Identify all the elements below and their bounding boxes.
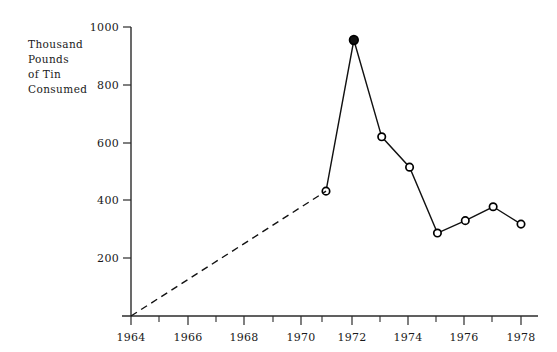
- x-tick-label-1966: 1966: [173, 331, 202, 344]
- data-point-marker-1973[interactable]: [378, 133, 385, 140]
- y-tick-label-800: 800: [97, 79, 119, 92]
- y-axis-ticks: [123, 27, 131, 258]
- y-tick-label-600: 600: [97, 137, 119, 150]
- x-tick-label-1968: 1968: [229, 331, 258, 344]
- y-axis-tick-labels: 1000 800 600 400 200: [90, 21, 119, 265]
- data-point-marker-1975[interactable]: [434, 229, 441, 236]
- y-axis-label-line-3: of Tin: [28, 68, 61, 80]
- series-trend-dashed: [131, 191, 326, 316]
- data-point-marker-1978[interactable]: [517, 220, 524, 227]
- x-tick-label-1964: 1964: [116, 331, 145, 344]
- line-chart: Thousand Pounds of Tin Consumed 1000 800…: [0, 0, 557, 352]
- x-tick-label-1976: 1976: [449, 331, 478, 344]
- x-axis-ticks: [131, 316, 521, 325]
- y-tick-label-1000: 1000: [90, 21, 119, 34]
- y-axis-label-line-1: Thousand: [28, 38, 83, 50]
- chart-page: Thousand Pounds of Tin Consumed 1000 800…: [0, 0, 557, 352]
- y-tick-label-400: 400: [97, 194, 119, 207]
- x-tick-label-1970: 1970: [286, 331, 315, 344]
- y-axis-label-line-4: Consumed: [28, 83, 87, 95]
- y-axis-label-line-2: Pounds: [28, 53, 69, 65]
- data-point-marker-1974[interactable]: [406, 163, 413, 170]
- x-tick-label-1974: 1974: [393, 331, 422, 344]
- plot-area: [131, 36, 525, 316]
- data-point-marker-1977[interactable]: [489, 203, 496, 210]
- data-point-marker-1972[interactable]: [350, 36, 359, 45]
- y-axis-label: Thousand Pounds of Tin Consumed: [28, 38, 87, 95]
- data-point-marker-1976[interactable]: [462, 217, 469, 224]
- x-tick-label-1978: 1978: [506, 331, 535, 344]
- x-axis-tick-labels: 1964 1966 1968 1970 1972 1974 1976 1978: [116, 331, 535, 344]
- y-tick-label-200: 200: [97, 252, 119, 265]
- x-tick-label-1972: 1972: [337, 331, 366, 344]
